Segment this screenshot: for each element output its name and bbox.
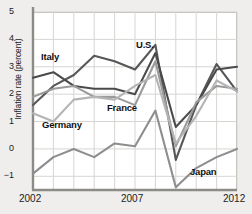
y-axis-label: Inflation rate (percent) <box>13 14 23 144</box>
y-tick-label: 3 <box>0 62 14 71</box>
inflation-rate-chart: Inflation rate (percent) 543210−1 200220… <box>0 0 252 214</box>
series-label-japan: Japan <box>190 167 216 177</box>
series-label-germany: Germany <box>42 120 82 130</box>
y-tick-label: −1 <box>0 171 14 180</box>
y-tick-label: 0 <box>0 144 14 153</box>
y-tick-label: 2 <box>0 89 14 98</box>
y-tick-label: 4 <box>0 34 14 43</box>
series-label-italy: Italy <box>41 52 59 62</box>
series-label-france: France <box>107 103 137 113</box>
x-tick-label: 2007 <box>121 194 143 204</box>
y-tick-label: 1 <box>0 117 14 126</box>
y-tick-label: 5 <box>0 7 14 16</box>
x-tick-label: 2012 <box>223 194 245 204</box>
x-tick-label: 2002 <box>19 194 41 204</box>
series-label-us: U.S. <box>136 40 154 50</box>
